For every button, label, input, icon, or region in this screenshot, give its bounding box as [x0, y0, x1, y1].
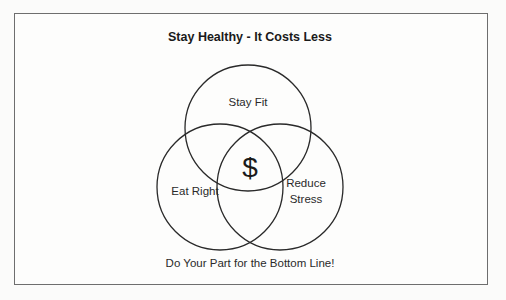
- eat-right-label: Eat Right: [171, 185, 219, 197]
- dollar-symbol: $: [242, 152, 258, 183]
- venn-diagram: Stay Healthy - It Costs Less Stay Fit $ …: [0, 0, 506, 300]
- stress-label: Stress: [290, 193, 323, 205]
- reduce-label: Reduce: [286, 177, 326, 189]
- diagram-title: Stay Healthy - It Costs Less: [168, 30, 332, 44]
- footer-caption: Do Your Part for the Bottom Line!: [166, 257, 335, 269]
- stay-fit-label: Stay Fit: [229, 96, 269, 108]
